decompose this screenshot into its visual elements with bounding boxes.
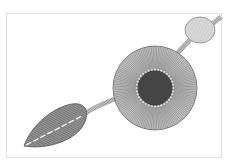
- flower-illustration: [0, 0, 236, 166]
- flower-bud: [185, 17, 215, 43]
- flower-head: [113, 46, 197, 130]
- flower-center: [138, 71, 173, 106]
